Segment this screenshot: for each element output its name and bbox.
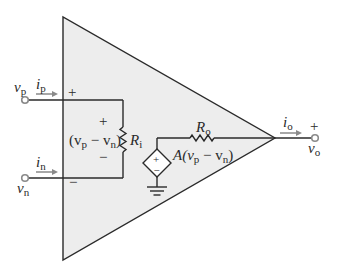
- positive-input-sign: +: [68, 84, 76, 100]
- op-amp-circuit-diagram: vp ip + in vn − + (vp − vn) − Ri + − A(v…: [0, 0, 339, 273]
- vp-label: vp: [14, 79, 27, 97]
- io-label: io: [283, 114, 293, 132]
- output-plus-sign: +: [310, 118, 318, 134]
- negative-input-sign: −: [69, 174, 77, 190]
- vo-label: vo: [308, 140, 321, 158]
- positive-input-terminal[interactable]: [22, 97, 29, 104]
- ri-minus-sign: −: [99, 149, 107, 165]
- vn-label: vn: [17, 180, 30, 198]
- ip-label: ip: [36, 76, 46, 94]
- in-label: in: [36, 154, 46, 172]
- ri-plus-sign: +: [99, 113, 107, 129]
- source-minus-sign: −: [154, 164, 160, 176]
